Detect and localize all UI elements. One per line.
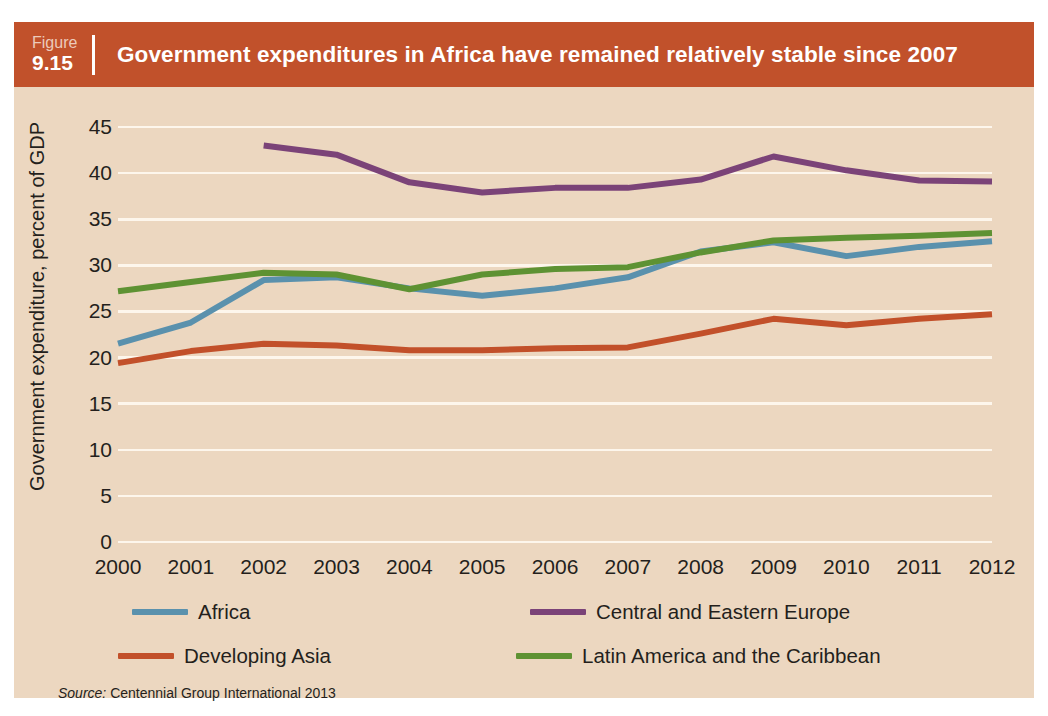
x-axis-tick-label: 2005 <box>459 555 506 579</box>
figure-container: Figure 9.15 Government expenditures in A… <box>0 0 1048 716</box>
y-axis-title: Government expenditure, percent of GDP <box>26 92 49 522</box>
x-axis-tick-label: 2012 <box>969 555 1016 579</box>
x-axis-tick-label: 2000 <box>95 555 142 579</box>
series-line <box>264 145 992 192</box>
chart-legend: AfricaCentral and Eastern EuropeDevelopi… <box>118 599 998 685</box>
x-axis-tick-label: 2009 <box>750 555 797 579</box>
series-line <box>118 314 992 363</box>
chart-body: Government expenditure, percent of GDP 0… <box>14 87 1034 698</box>
legend-item[interactable]: Africa <box>132 599 250 625</box>
legend-swatch-icon <box>132 609 188 615</box>
series-line <box>118 241 992 343</box>
legend-label: Developing Asia <box>184 644 331 668</box>
figure-number-block: Figure 9.15 <box>14 35 92 75</box>
figure-header: Figure 9.15 Government expenditures in A… <box>14 22 1034 87</box>
legend-item[interactable]: Central and Eastern Europe <box>530 599 850 625</box>
figure-panel: Figure 9.15 Government expenditures in A… <box>14 22 1034 698</box>
source-note: Source: Centennial Group International 2… <box>58 685 336 701</box>
x-axis-tick-label: 2002 <box>240 555 287 579</box>
x-axis-tick-label: 2001 <box>167 555 214 579</box>
legend-item[interactable]: Latin America and the Caribbean <box>516 643 881 669</box>
y-axis-tick-label: 45 <box>66 115 112 139</box>
x-axis-tick-label: 2003 <box>313 555 360 579</box>
y-axis-tick-label: 0 <box>66 530 112 554</box>
legend-label: Central and Eastern Europe <box>596 600 850 624</box>
y-axis-tick-label: 40 <box>66 161 112 185</box>
source-text: Centennial Group International 2013 <box>110 685 336 701</box>
plot-area <box>118 127 992 542</box>
y-axis-tick-label: 30 <box>66 253 112 277</box>
figure-title: Government expenditures in Africa have r… <box>117 42 958 68</box>
legend-label: Latin America and the Caribbean <box>582 644 881 668</box>
x-axis-tick-label: 2007 <box>604 555 651 579</box>
x-axis-tick-label: 2006 <box>532 555 579 579</box>
legend-swatch-icon <box>118 653 174 659</box>
series-lines <box>118 127 992 542</box>
x-axis-tick-label: 2011 <box>897 555 942 579</box>
figure-number: 9.15 <box>32 52 92 74</box>
y-axis-tick-label: 25 <box>66 299 112 323</box>
x-axis-tick-label: 2008 <box>677 555 724 579</box>
legend-label: Africa <box>198 600 250 624</box>
x-axis-tick-label: 2010 <box>823 555 870 579</box>
y-axis-tick-label: 15 <box>66 392 112 416</box>
y-axis-tick-label: 20 <box>66 346 112 370</box>
legend-swatch-icon <box>516 653 572 659</box>
x-axis-tick-label: 2004 <box>386 555 433 579</box>
y-axis-ticks: 051015202530354045 <box>54 127 112 542</box>
legend-swatch-icon <box>530 609 586 615</box>
figure-label: Figure <box>32 35 92 52</box>
legend-item[interactable]: Developing Asia <box>118 643 331 669</box>
y-axis-tick-label: 10 <box>66 438 112 462</box>
y-axis-tick-label: 5 <box>66 484 112 508</box>
series-line <box>118 233 992 291</box>
header-divider <box>92 35 95 75</box>
y-axis-tick-label: 35 <box>66 207 112 231</box>
source-keyword: Source: <box>58 685 106 701</box>
x-axis-ticks: 2000200120022003200420052006200720082009… <box>118 555 992 585</box>
